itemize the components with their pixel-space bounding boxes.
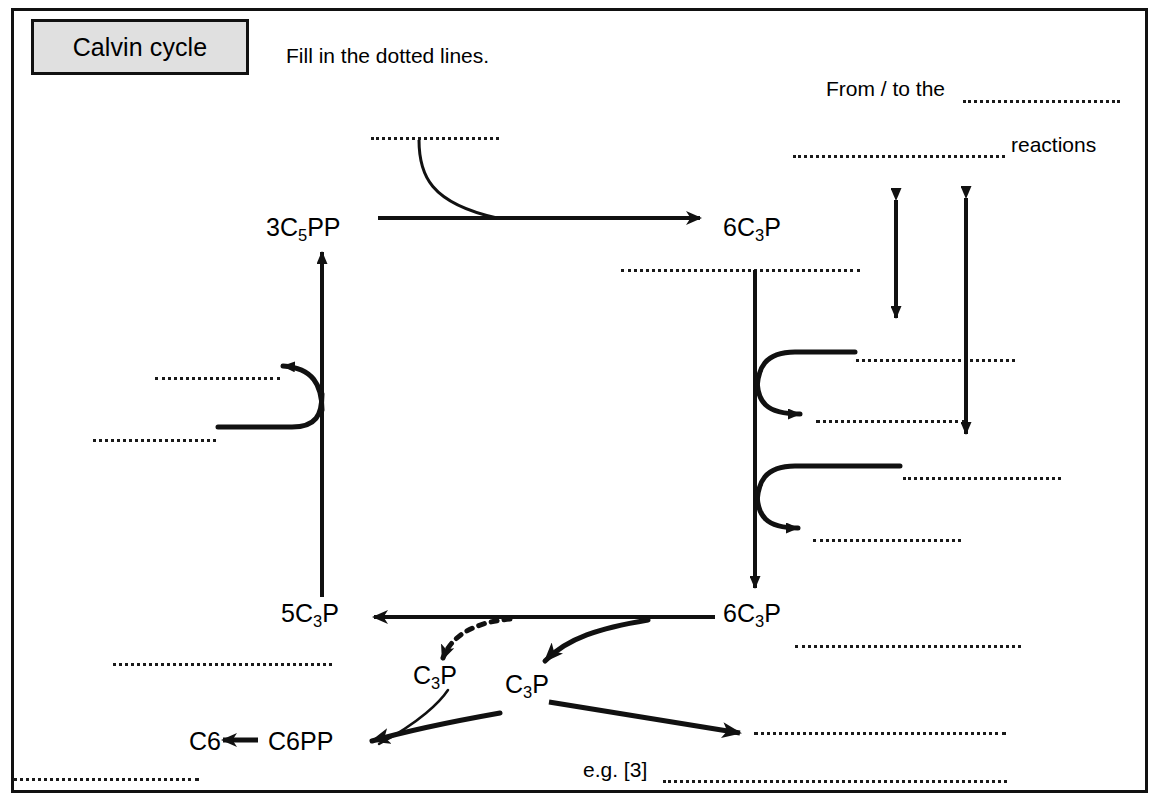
- blank-left-product[interactable]: [155, 377, 280, 380]
- blank-from-to-the[interactable]: [963, 100, 1120, 103]
- page-title: Calvin cycle: [73, 35, 208, 60]
- blank-right-reactant-one[interactable]: [856, 359, 1015, 362]
- blank-top-carbon-source[interactable]: [371, 137, 499, 140]
- molecule-5c3p: 5C3P: [281, 601, 339, 629]
- from-to-the-label: From / to the: [826, 78, 945, 99]
- page-border: [11, 8, 1148, 793]
- blank-bottom-left-footnote[interactable]: [13, 778, 199, 781]
- molecule-3c5pp-prefix: 3C: [266, 213, 298, 241]
- molecule-c3p-left-suffix: P: [440, 661, 457, 689]
- molecule-c6: C6: [189, 729, 221, 754]
- blank-right-reactant-two[interactable]: [903, 477, 1061, 480]
- molecule-6c3p-top-sub: 3: [755, 226, 764, 244]
- blank-below-five-c3p[interactable]: [113, 663, 332, 666]
- molecule-6c3p-bottom-suffix: P: [764, 599, 781, 627]
- molecule-5c3p-suffix: P: [322, 599, 339, 627]
- molecule-6c3p-top-prefix: 6C: [723, 213, 755, 241]
- molecule-c3p-left-sub: 3: [431, 674, 440, 692]
- molecule-3c5pp-suffix: PP: [307, 213, 340, 241]
- molecule-6c3p-top: 6C3P: [723, 215, 781, 243]
- molecule-5c3p-prefix: 5C: [281, 599, 313, 627]
- blank-left-reactant[interactable]: [93, 439, 216, 442]
- molecule-c3p-right: C3P: [505, 672, 549, 700]
- blank-right-product-one[interactable]: [816, 420, 966, 423]
- molecule-6c3p-bottom-prefix: 6C: [723, 599, 755, 627]
- molecule-c6pp: C6PP: [268, 729, 333, 754]
- blank-below-six-c3p-top[interactable]: [621, 269, 860, 272]
- molecule-c3p-right-suffix: P: [532, 670, 549, 698]
- molecule-3c5pp: 3C5PP: [266, 215, 341, 243]
- eg-three-label: e.g. [3]: [583, 759, 647, 780]
- molecule-6c3p-bottom: 6C3P: [723, 601, 781, 629]
- title-box: Calvin cycle: [31, 19, 249, 75]
- worksheet-page: Calvin cycle Fill in the dotted lines. F…: [0, 0, 1159, 809]
- molecule-3c5pp-sub: 5: [298, 226, 307, 244]
- blank-eg-three[interactable]: [663, 780, 1007, 783]
- blank-right-product-two[interactable]: [813, 539, 961, 542]
- reactions-label: reactions: [1011, 134, 1096, 155]
- molecule-6c3p-bottom-sub: 3: [755, 612, 764, 630]
- molecule-c3p-right-sub: 3: [523, 683, 532, 701]
- molecule-c3p-left-prefix: C: [413, 661, 431, 689]
- blank-right-of-six-c3p[interactable]: [795, 645, 1021, 648]
- molecule-5c3p-sub: 3: [313, 612, 322, 630]
- instruction-text: Fill in the dotted lines.: [286, 44, 489, 68]
- molecule-6c3p-top-suffix: P: [764, 213, 781, 241]
- blank-reactions-name[interactable]: [793, 155, 1005, 158]
- blank-c3p-output[interactable]: [754, 732, 1006, 735]
- molecule-c3p-left: C3P: [413, 663, 457, 691]
- molecule-c3p-right-prefix: C: [505, 670, 523, 698]
